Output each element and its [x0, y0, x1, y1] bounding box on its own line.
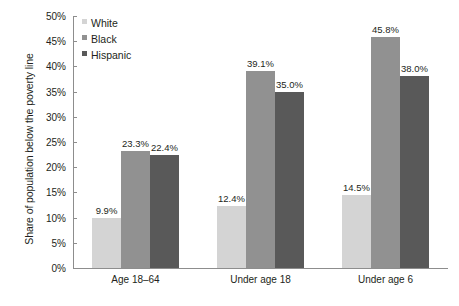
- y-axis-tick-label: 40%: [46, 61, 66, 72]
- y-axis-tick: [73, 268, 77, 269]
- legend-item-white[interactable]: White: [82, 15, 131, 31]
- legend-item-hispanic[interactable]: Hispanic: [82, 47, 131, 63]
- bar-black-under-age-18[interactable]: [246, 71, 275, 268]
- legend-label-white: White: [91, 17, 118, 29]
- bar-hispanic-under-age-18[interactable]: [275, 92, 304, 268]
- bar-white-age-18-64[interactable]: [92, 218, 121, 268]
- x-axis-category-label: Age 18–64: [111, 274, 159, 285]
- y-axis-tick-label: 5%: [52, 237, 66, 248]
- x-axis-line: [73, 268, 448, 269]
- y-axis-tick-label: 25%: [46, 137, 66, 148]
- y-axis-tick: [73, 16, 77, 17]
- y-axis-title: Share of population below the poverty li…: [23, 24, 35, 274]
- y-axis-tick: [73, 142, 77, 143]
- bar-group: 14.5%45.8%38.0%: [342, 16, 429, 268]
- bar-white-under-age-6[interactable]: [342, 195, 371, 268]
- bar-hispanic-under-age-6[interactable]: [400, 76, 429, 268]
- legend-swatch-hispanic-icon: [82, 51, 87, 56]
- bar-chart: Share of population below the poverty li…: [0, 0, 459, 306]
- legend: White Black Hispanic: [82, 15, 131, 63]
- bar-value-label: 39.1%: [241, 58, 280, 69]
- bar-value-label: 45.8%: [366, 24, 405, 35]
- bar-group: 12.4%39.1%35.0%: [217, 16, 304, 268]
- y-axis-tick: [73, 218, 77, 219]
- x-axis-category-label: Under age 18: [230, 274, 291, 285]
- bar-value-label: 38.0%: [395, 63, 434, 74]
- y-axis-tick: [73, 92, 77, 93]
- y-axis-tick-label: 20%: [46, 162, 66, 173]
- y-axis-tick-label: 35%: [46, 86, 66, 97]
- legend-swatch-white-icon: [82, 19, 87, 24]
- legend-label-hispanic: Hispanic: [91, 49, 131, 61]
- y-axis-tick: [73, 243, 77, 244]
- y-axis-tick-label: 30%: [46, 111, 66, 122]
- bar-black-age-18-64[interactable]: [121, 151, 150, 268]
- bar-value-label: 22.4%: [145, 142, 184, 153]
- y-axis-tick: [73, 192, 77, 193]
- y-axis-tick: [73, 66, 77, 67]
- y-axis-tick: [73, 117, 77, 118]
- legend-item-black[interactable]: Black: [82, 31, 131, 47]
- y-axis-tick-label: 15%: [46, 187, 66, 198]
- x-axis-category-label: Under age 6: [358, 274, 413, 285]
- legend-label-black: Black: [91, 33, 117, 45]
- y-axis-tick-label: 50%: [46, 11, 66, 22]
- y-axis-tick-label: 45%: [46, 36, 66, 47]
- y-axis-tick-label: 10%: [46, 212, 66, 223]
- y-axis-tick-label: 0%: [52, 263, 66, 274]
- legend-swatch-black-icon: [82, 35, 87, 40]
- bar-white-under-age-18[interactable]: [217, 206, 246, 268]
- y-axis-tick: [73, 167, 77, 168]
- y-axis-tick: [73, 41, 77, 42]
- bar-value-label: 35.0%: [270, 79, 309, 90]
- bar-hispanic-age-18-64[interactable]: [150, 155, 179, 268]
